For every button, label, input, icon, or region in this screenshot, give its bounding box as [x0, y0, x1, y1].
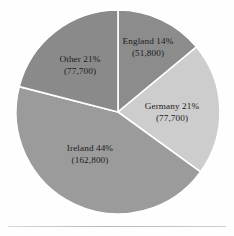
pie-chart-figure: England 14% (51,800) Germany 21% (77,700… — [0, 0, 234, 236]
pie-chart-graphic — [0, 0, 234, 236]
page-rule-divider — [8, 226, 226, 227]
pie-slices — [16, 10, 220, 214]
